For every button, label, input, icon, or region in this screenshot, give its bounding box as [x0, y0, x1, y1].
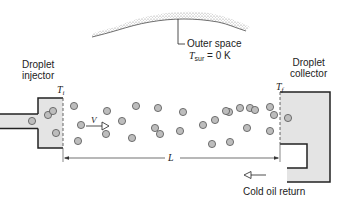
- droplet: [74, 137, 81, 144]
- droplet: [128, 134, 135, 141]
- droplet: [103, 107, 110, 114]
- collector-label-line2: collector: [290, 68, 327, 79]
- droplet: [132, 102, 139, 109]
- droplet: [270, 111, 277, 118]
- outer-space-leader-line: [178, 19, 185, 44]
- ti-subscript: i: [63, 89, 65, 97]
- droplet: [118, 117, 125, 124]
- injector-label-line1: Droplet: [22, 59, 54, 70]
- droplet: [236, 104, 243, 111]
- tf-subscript: f: [282, 86, 284, 94]
- droplet-radiator-diagram: [0, 0, 342, 206]
- droplet: [28, 117, 35, 124]
- droplet: [266, 103, 273, 110]
- droplet: [156, 130, 163, 137]
- droplets: [28, 102, 291, 147]
- ti-label: Ti: [57, 84, 65, 99]
- outer-space-cloud: [92, 12, 250, 37]
- droplet: [151, 124, 158, 131]
- droplet: [266, 127, 273, 134]
- droplet: [49, 107, 56, 114]
- collector-label: Droplet collector: [290, 57, 327, 79]
- droplet: [226, 138, 233, 145]
- droplet-collector: [280, 92, 330, 182]
- outer-space-label: Outer space: [187, 38, 241, 49]
- cold-oil-return-arrow: [244, 172, 266, 179]
- droplet: [208, 140, 215, 147]
- velocity-label: V: [91, 115, 97, 126]
- droplet: [251, 106, 258, 113]
- droplet: [70, 102, 77, 109]
- length-label: L: [168, 152, 174, 163]
- velocity-arrow: [86, 122, 109, 130]
- droplet: [52, 129, 59, 136]
- tf-label: Tf: [276, 81, 284, 96]
- droplet: [154, 104, 161, 111]
- tsur-value: = 0 K: [204, 50, 230, 61]
- cold-oil-return-label: Cold oil return: [243, 186, 305, 197]
- droplet: [176, 127, 183, 134]
- injector-label-line2: injector: [22, 70, 54, 81]
- droplet: [199, 121, 206, 128]
- tsur-label: Tsur = 0 K: [189, 50, 231, 64]
- injector-label: Droplet injector: [22, 59, 54, 81]
- droplet: [243, 124, 250, 131]
- droplet: [222, 107, 229, 114]
- droplet: [179, 108, 186, 115]
- droplet: [102, 130, 109, 137]
- droplet: [77, 121, 84, 128]
- collector-label-line1: Droplet: [290, 57, 327, 68]
- droplet: [284, 114, 291, 121]
- tsur-subscript: sur: [195, 55, 205, 62]
- droplet: [211, 116, 218, 123]
